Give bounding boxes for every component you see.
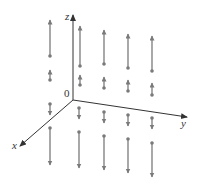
vector-base-point: [48, 78, 52, 82]
vector-arrow: [150, 141, 154, 177]
vector-arrow: [102, 110, 106, 123]
y-axis-label: y: [180, 117, 186, 129]
vector-arrow: [102, 134, 106, 170]
vector-arrow: [48, 20, 52, 58]
vector-base-point: [126, 113, 130, 117]
vector-base-point: [48, 126, 52, 130]
x-axis: [20, 100, 73, 146]
vector-base-point: [150, 141, 154, 145]
coordinate-axes: z y x 0: [11, 10, 187, 151]
vector-arrow: [48, 102, 52, 115]
vector-arrow: [48, 70, 52, 82]
y-axis: [73, 100, 187, 117]
z-axis-label: z: [64, 10, 70, 22]
vector-arrow: [77, 130, 81, 168]
vector-arrow: [150, 36, 154, 73]
vector-base-point: [126, 66, 130, 70]
x-axis-label: x: [11, 139, 17, 151]
vector-base-point: [48, 102, 52, 106]
vector-arrow: [150, 116, 154, 129]
vector-arrow: [126, 113, 130, 126]
vector-field-diagram: z y x 0: [0, 0, 201, 185]
vector-base-point: [102, 134, 106, 138]
vector-arrow: [77, 106, 81, 119]
vector-arrow: [78, 75, 82, 87]
vector-base-point: [126, 89, 130, 93]
vector-base-point: [102, 62, 106, 66]
vector-arrow: [102, 30, 106, 66]
vector-base-point: [150, 93, 154, 97]
vector-arrow: [78, 26, 82, 68]
vector-base-point: [78, 83, 82, 87]
vector-base-point: [77, 106, 81, 110]
vector-base-point: [150, 116, 154, 120]
vector-base-point: [102, 110, 106, 114]
vector-arrow: [126, 34, 130, 70]
vector-arrow: [48, 126, 52, 165]
vector-base-point: [78, 64, 82, 68]
vector-base-point: [102, 86, 106, 90]
vector-base-point: [150, 69, 154, 73]
vector-arrow: [126, 80, 130, 93]
vector-arrow: [126, 137, 130, 173]
vector-arrow: [150, 83, 154, 97]
vector-base-point: [126, 137, 130, 141]
vector-base-point: [77, 130, 81, 134]
vector-base-point: [48, 54, 52, 58]
origin-label: 0: [64, 87, 70, 99]
vector-arrow: [102, 77, 106, 90]
